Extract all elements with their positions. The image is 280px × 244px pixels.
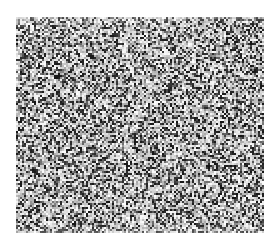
noise-texture-image xyxy=(16,17,264,233)
